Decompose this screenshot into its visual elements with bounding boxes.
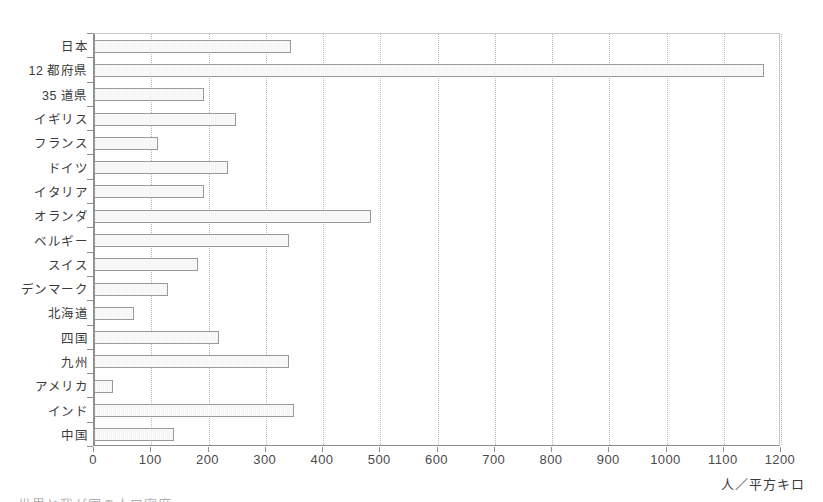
x-axis-tick-label: 500	[368, 452, 391, 467]
bar	[94, 283, 168, 296]
x-gridline	[552, 34, 553, 445]
x-gridline	[609, 34, 610, 445]
x-gridline	[781, 34, 782, 445]
bar	[94, 331, 219, 344]
y-axis-tick	[87, 227, 93, 228]
x-gridline	[323, 34, 324, 445]
x-axis-tick-label: 200	[196, 452, 219, 467]
y-axis-tick	[87, 82, 93, 83]
category-label: イギリス	[4, 109, 88, 128]
x-gridline	[438, 34, 439, 445]
bar	[94, 113, 236, 126]
x-axis-tick-label: 700	[482, 452, 505, 467]
y-axis-tick	[87, 325, 93, 326]
bar	[94, 40, 291, 53]
plot-area	[93, 33, 780, 446]
bar	[94, 258, 198, 271]
x-axis-tick-label: 1100	[708, 452, 738, 467]
bar	[94, 234, 289, 247]
category-label: 日本	[4, 36, 88, 55]
x-axis-tick-label: 600	[425, 452, 448, 467]
x-gridline	[380, 34, 381, 445]
category-label: スイス	[4, 254, 88, 273]
bar	[94, 185, 204, 198]
y-axis-tick	[87, 106, 93, 107]
x-axis-tick-label: 900	[597, 452, 620, 467]
bottom-caption: 世界と我が国の人口密度	[18, 494, 172, 502]
bar	[94, 404, 294, 417]
y-axis-tick	[87, 130, 93, 131]
category-label: 35 道県	[4, 84, 88, 103]
category-label: フランス	[4, 133, 88, 152]
x-axis-tick-label: 400	[311, 452, 334, 467]
y-axis-tick	[87, 397, 93, 398]
y-axis-tick	[87, 349, 93, 350]
category-label: アメリカ	[4, 376, 88, 395]
y-axis-tick	[87, 154, 93, 155]
x-axis-tick-label: 0	[89, 452, 97, 467]
bar	[94, 210, 371, 223]
category-label: イタリア	[4, 181, 88, 200]
category-label: インド	[4, 400, 88, 419]
bar	[94, 307, 134, 320]
y-axis-tick	[87, 276, 93, 277]
bar	[94, 64, 764, 77]
y-axis-tick	[87, 422, 93, 423]
x-axis-tick-label: 300	[253, 452, 276, 467]
y-axis-tick	[87, 33, 93, 34]
bar	[94, 428, 174, 441]
bar	[94, 88, 204, 101]
y-axis-tick	[87, 203, 93, 204]
y-axis-tick	[87, 57, 93, 58]
x-axis-tick-label: 1000	[650, 452, 681, 467]
category-label: 北海道	[4, 303, 88, 322]
x-axis-tick-label: 1200	[765, 452, 796, 467]
x-axis-tick-label: 800	[540, 452, 563, 467]
y-axis-tick	[87, 446, 93, 447]
y-axis-tick	[87, 252, 93, 253]
x-gridline	[495, 34, 496, 445]
category-axis-labels: 日本12 都府県35 道県イギリスフランスドイツイタリアオランダベルギースイスデ…	[0, 0, 88, 502]
y-axis-tick	[87, 300, 93, 301]
category-label: ベルギー	[4, 230, 88, 249]
category-label: ドイツ	[4, 157, 88, 176]
bar	[94, 355, 289, 368]
category-label: オランダ	[4, 206, 88, 225]
y-axis-tick	[87, 373, 93, 374]
category-label: 九州	[4, 351, 88, 370]
x-gridline	[724, 34, 725, 445]
bar	[94, 161, 228, 174]
bar	[94, 380, 113, 393]
category-label: 四国	[4, 327, 88, 346]
category-label: 中国	[4, 424, 88, 443]
y-axis-tick	[87, 179, 93, 180]
x-gridline	[667, 34, 668, 445]
category-label: 12 都府県	[4, 60, 88, 79]
x-axis-unit-label: 人／平方キロ	[721, 474, 805, 493]
chart-figure: 日本12 都府県35 道県イギリスフランスドイツイタリアオランダベルギースイスデ…	[0, 0, 823, 502]
category-label: デンマーク	[4, 279, 88, 298]
bar	[94, 137, 158, 150]
x-axis-tick-label: 100	[139, 452, 162, 467]
